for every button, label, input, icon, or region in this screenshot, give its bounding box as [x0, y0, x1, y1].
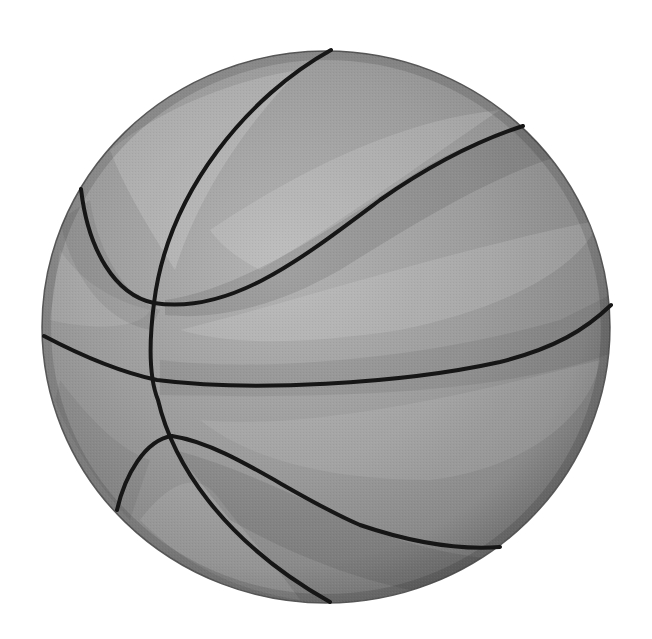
basketball-illustration	[0, 0, 652, 639]
ball-shading	[0, 0, 652, 639]
image-canvas: Grayscale basketball	[0, 0, 652, 639]
